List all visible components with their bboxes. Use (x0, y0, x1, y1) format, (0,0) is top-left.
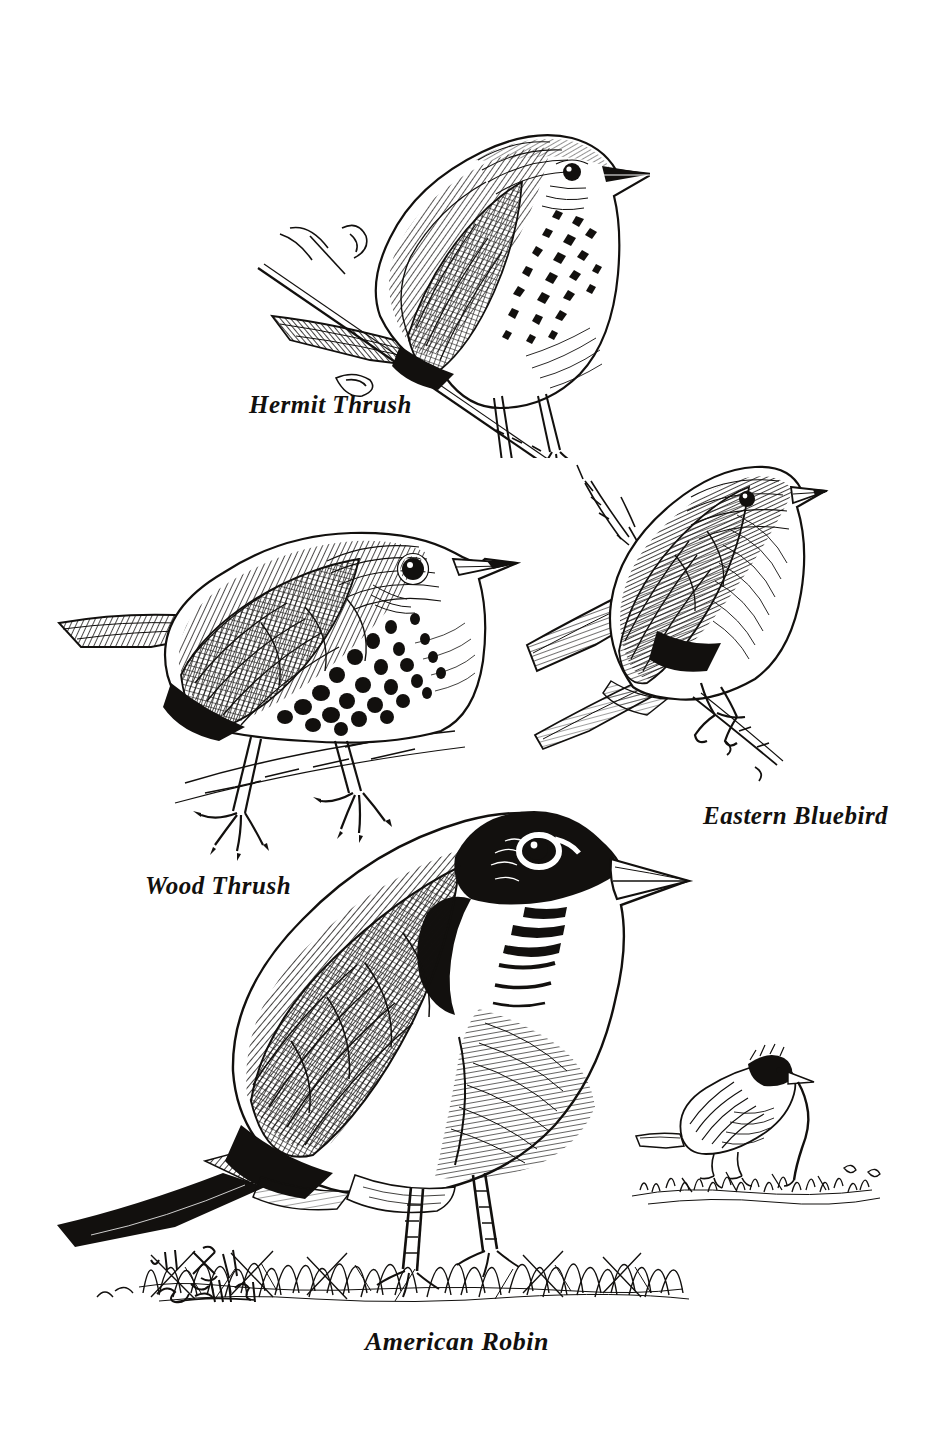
eye (739, 491, 755, 507)
illustration-plate: Hermit Thrush (0, 0, 925, 1435)
figure-eastern-bluebird (525, 435, 845, 785)
perch-twig (693, 693, 783, 781)
label-american-robin: American Robin (365, 1327, 549, 1357)
eye (563, 163, 581, 181)
robin-worm-sketch (632, 1044, 880, 1204)
figure-robin-with-worm (622, 1020, 907, 1215)
artist-signature (145, 1238, 315, 1308)
american-robin-drawing (57, 811, 689, 1302)
eye (402, 558, 424, 580)
label-eastern-bluebird: Eastern Bluebird (703, 802, 888, 830)
broken-twig (577, 465, 637, 545)
label-hermit-thrush: Hermit Thrush (249, 391, 412, 419)
feet (377, 1251, 519, 1297)
eastern-bluebird-drawing (527, 465, 827, 781)
